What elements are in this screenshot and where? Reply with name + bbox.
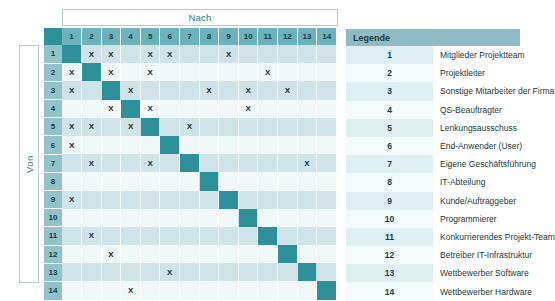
matrix-cell-9-6 <box>160 191 180 209</box>
matrix-cell-10-6 <box>160 209 180 227</box>
matrix-cell-8-14 <box>317 172 337 190</box>
legend-item-number-14: 14 <box>346 282 433 300</box>
matrix-cell-7-1 <box>62 154 82 172</box>
matrix-cell-10-5 <box>140 209 160 227</box>
legend-item-label-9: Kunde/Auftraggeber <box>433 192 520 210</box>
matrix-cell-14-13 <box>297 281 317 299</box>
matrix-cell-marked-11-2: X <box>82 227 102 245</box>
matrix-row: 11X <box>44 227 336 245</box>
matrix-cell-9-5 <box>140 191 160 209</box>
matrix-cell-6-8 <box>199 136 219 154</box>
matrix-cell-11-3 <box>101 227 121 245</box>
legend-item-label-6: End-Anwender (User) <box>433 137 520 155</box>
row-header-7: 7 <box>44 154 62 172</box>
legend-item-number-7: 7 <box>346 155 433 173</box>
matrix-cell-marked-5-1: X <box>62 118 82 136</box>
matrix-cell-marked-4-10: X <box>238 100 258 118</box>
column-header-2: 2 <box>82 28 102 45</box>
legend-item: 11Konkurrierendes Projekt-Team <box>346 228 520 246</box>
matrix-cell-2-9 <box>219 63 239 81</box>
legend-item-number-12: 12 <box>346 246 433 264</box>
matrix-cell-diagonal-8 <box>199 172 219 190</box>
matrix-cell-4-6 <box>160 100 180 118</box>
matrix-row: 13X <box>44 263 336 281</box>
matrix-cell-5-3 <box>101 118 121 136</box>
matrix-cell-1-13 <box>297 45 317 63</box>
matrix-cell-diagonal-5 <box>140 118 160 136</box>
matrix-cell-14-9 <box>219 281 239 299</box>
column-header-11: 11 <box>258 28 278 45</box>
matrix-cell-8-5 <box>140 172 160 190</box>
matrix-cell-12-1 <box>62 245 82 263</box>
matrix-cell-6-3 <box>101 136 121 154</box>
legend-item: 6End-Anwender (User) <box>346 137 520 155</box>
matrix-cell-marked-2-11: X <box>258 63 278 81</box>
matrix-cell-diagonal-9 <box>219 191 239 209</box>
matrix-row: 1XXXXX <box>44 45 336 63</box>
matrix-cell-11-12 <box>278 227 298 245</box>
legend-item-label-3: Sonstige Mitarbeiter der Firma <box>433 82 520 100</box>
matrix-cell-6-12 <box>278 136 298 154</box>
legend-item-number-2: 2 <box>346 64 433 82</box>
matrix-cell-11-5 <box>140 227 160 245</box>
matrix-cell-diagonal-10 <box>238 209 258 227</box>
matrix-row: 2XXXX <box>44 63 336 81</box>
matrix-cell-diagonal-7 <box>180 154 200 172</box>
matrix-cell-12-2 <box>82 245 102 263</box>
legend-item: 5Lenkungsausschuss <box>346 119 520 137</box>
matrix-cell-9-4 <box>121 191 141 209</box>
row-header-4: 4 <box>44 100 62 118</box>
matrix-cell-5-6 <box>160 118 180 136</box>
matrix-cell-9-14 <box>317 191 337 209</box>
matrix-cell-1-8 <box>199 45 219 63</box>
column-header-6: 6 <box>160 28 180 45</box>
matrix-cell-marked-3-4: X <box>121 81 141 99</box>
matrix-cell-6-14 <box>317 136 337 154</box>
matrix-cell-marked-1-2: X <box>82 45 102 63</box>
matrix-cell-8-3 <box>101 172 121 190</box>
matrix-cell-marked-14-4: X <box>121 281 141 299</box>
row-header-9: 9 <box>44 191 62 209</box>
column-header-12: 12 <box>278 28 298 45</box>
matrix-cell-2-8 <box>199 63 219 81</box>
matrix-cell-7-12 <box>278 154 298 172</box>
matrix-cell-3-7 <box>180 81 200 99</box>
legend-item-label-2: Projektleiter <box>433 64 520 82</box>
matrix-cell-diagonal-11 <box>258 227 278 245</box>
matrix-cell-marked-2-5: X <box>140 63 160 81</box>
matrix-cell-4-9 <box>219 100 239 118</box>
matrix-cell-9-8 <box>199 191 219 209</box>
legend-item: 14Wettbewerber Hardware <box>346 282 520 300</box>
matrix-cell-12-5 <box>140 245 160 263</box>
legend-item-label-7: Eigene Geschäftsführung <box>433 155 520 173</box>
matrix-cell-3-11 <box>258 81 278 99</box>
matrix-cell-6-13 <box>297 136 317 154</box>
matrix-cell-7-10 <box>238 154 258 172</box>
legend-item: 13Wettbewerber Software <box>346 264 520 282</box>
matrix-cell-13-3 <box>101 263 121 281</box>
matrix-cell-8-4 <box>121 172 141 190</box>
rows-axis-label: Von <box>20 46 38 282</box>
row-header-3: 3 <box>44 81 62 99</box>
legend-body: Legende1Mitglieder Projektteam2Projektle… <box>346 29 520 301</box>
matrix-cell-3-9 <box>219 81 239 99</box>
matrix-cell-marked-1-6: X <box>160 45 180 63</box>
matrix-cell-13-7 <box>180 263 200 281</box>
row-header-13: 13 <box>44 263 62 281</box>
columns-axis-bracket: Nach <box>62 9 338 26</box>
matrix-cell-11-9 <box>219 227 239 245</box>
matrix-cell-10-14 <box>317 209 337 227</box>
column-header-8: 8 <box>199 28 219 45</box>
matrix-cell-13-4 <box>121 263 141 281</box>
matrix-cell-diagonal-4 <box>121 100 141 118</box>
matrix-cell-10-12 <box>278 209 298 227</box>
row-header-1: 1 <box>44 45 62 63</box>
matrix-cell-marked-1-3: X <box>101 45 121 63</box>
matrix-cell-8-12 <box>278 172 298 190</box>
matrix-cell-11-4 <box>121 227 141 245</box>
row-header-6: 6 <box>44 136 62 154</box>
legend-item: 10Programmierer <box>346 210 520 228</box>
matrix-cell-marked-12-3: X <box>101 245 121 263</box>
matrix-cell-7-6 <box>160 154 180 172</box>
matrix-cell-marked-1-5: X <box>140 45 160 63</box>
